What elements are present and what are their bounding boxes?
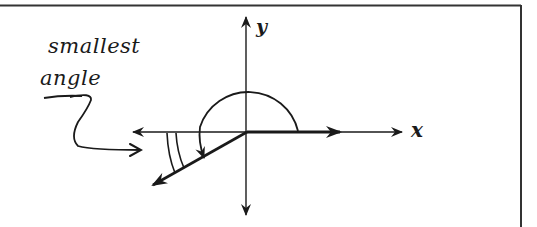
diagram-canvas: smallest angle y x xyxy=(0,0,537,227)
small-angle-marks xyxy=(167,133,184,173)
large-angle-arc xyxy=(200,92,299,158)
annotation-label-angle: angle xyxy=(40,68,101,89)
pointer-squiggle xyxy=(70,95,141,150)
y-axis-label: y xyxy=(256,17,267,36)
annotation-label-smallest: smallest xyxy=(48,36,140,57)
x-axis-label: x xyxy=(411,120,423,140)
